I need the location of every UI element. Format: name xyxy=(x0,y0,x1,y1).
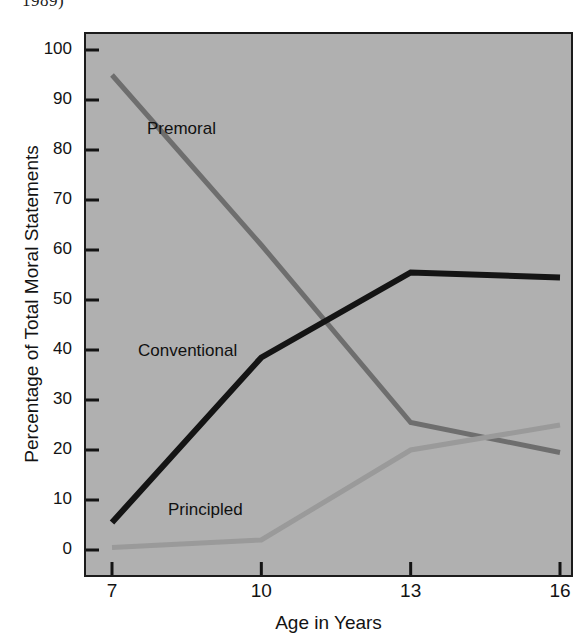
x-axis-title: Age in Years xyxy=(84,612,573,634)
series-label-premoral: Premoral xyxy=(147,119,216,139)
series-lines xyxy=(112,75,560,548)
y-tick-label: 0 xyxy=(10,539,72,559)
series-label-principled: Principled xyxy=(168,500,243,520)
chart-svg xyxy=(0,0,588,643)
figure-container: 1989) 0102030405060708090100 7101316 Per… xyxy=(0,0,588,643)
x-tick-label: 13 xyxy=(371,580,451,602)
y-tick-label: 100 xyxy=(10,39,72,59)
x-tick-label: 7 xyxy=(72,580,152,602)
series-line-conventional xyxy=(112,273,560,523)
x-tick-label: 10 xyxy=(221,580,301,602)
series-line-principled xyxy=(112,425,560,548)
y-axis-title: Percentage of Total Moral Statements xyxy=(21,104,43,504)
x-tick-label: 16 xyxy=(520,580,588,602)
series-label-conventional: Conventional xyxy=(138,341,237,361)
